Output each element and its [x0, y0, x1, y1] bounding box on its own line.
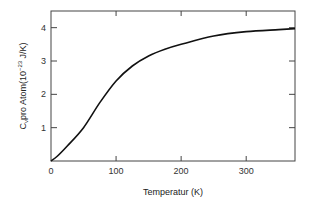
y-tick-label: 2	[41, 89, 46, 99]
x-tick-label: 100	[109, 166, 124, 176]
x-axis-label: Temperatur (K)	[143, 187, 203, 197]
x-tick-label: 200	[174, 166, 189, 176]
cv-curve	[51, 29, 295, 161]
tick-labels: 01002003001234	[41, 23, 254, 176]
x-tick-label: 300	[239, 166, 254, 176]
y-axis-label: Cvpro Atom(10−23 J/K)	[17, 42, 29, 129]
plot-frame	[51, 11, 295, 161]
y-tick-label: 3	[41, 56, 46, 66]
x-tick-label: 0	[48, 166, 53, 176]
y-tick-label: 1	[41, 123, 46, 133]
y-tick-label: 4	[41, 23, 46, 33]
chart: 01002003001234 Temperatur (K) Cvpro Atom…	[0, 0, 309, 203]
axis-ticks	[51, 11, 295, 161]
